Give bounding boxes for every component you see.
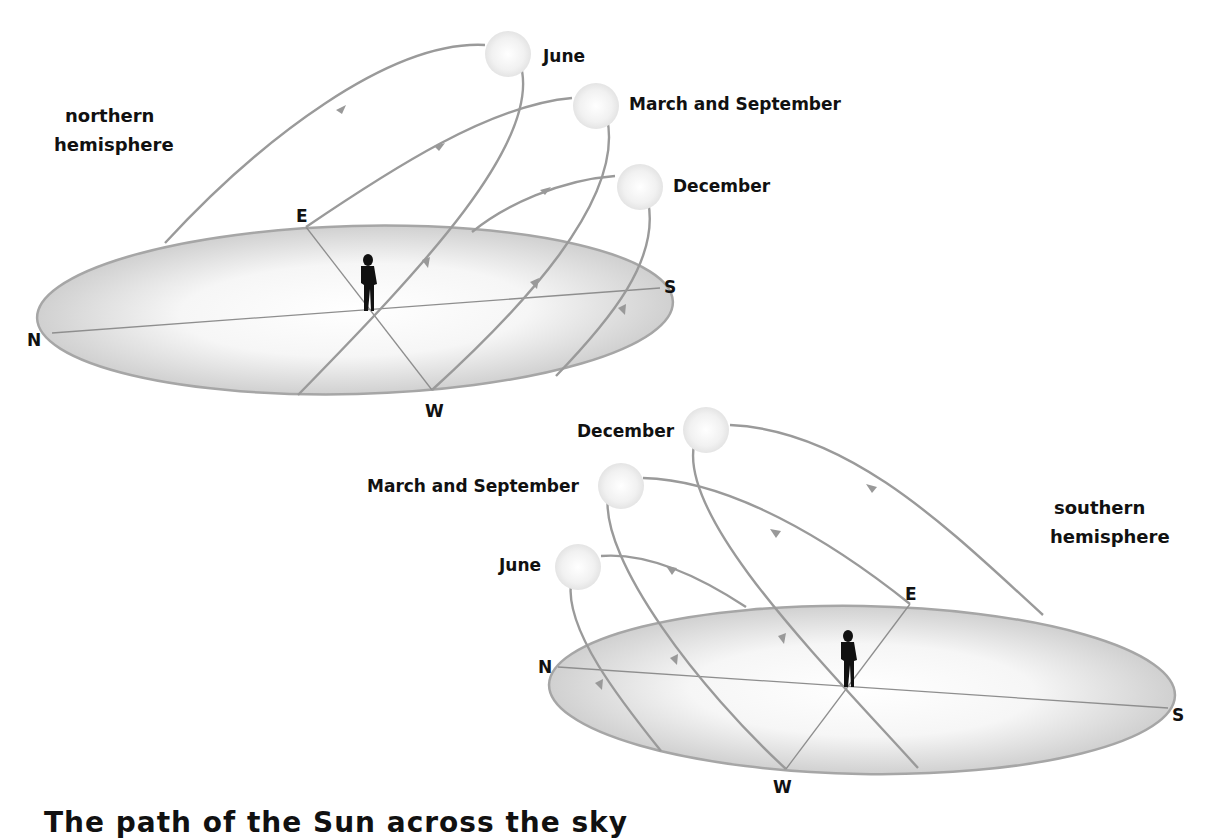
sun-june-icon — [555, 544, 601, 590]
southern-direction-south: S — [1172, 705, 1184, 725]
southern-direction-east: E — [905, 584, 917, 604]
southern-direction-west: W — [773, 777, 792, 797]
horizon-disc — [548, 601, 1177, 780]
northern-sun-label-equinox: March and September — [629, 94, 842, 114]
southern-hemisphere-label-line2: hemisphere — [1050, 526, 1170, 547]
northern-hemisphere-label-line1: northern — [65, 105, 154, 126]
southern-sun-label-june: June — [498, 555, 541, 575]
direction-arrow — [336, 105, 346, 114]
sun-equinox-icon — [598, 463, 644, 509]
southern-hemisphere-diagram: southern hemisphere December March and S… — [367, 407, 1184, 797]
sun-path-equinox — [643, 478, 910, 604]
sun-path-equinox — [306, 98, 572, 227]
direction-arrow — [866, 484, 877, 493]
sun-december-icon — [617, 164, 663, 210]
northern-sun-label-june: June — [542, 46, 585, 66]
northern-direction-north: N — [27, 330, 41, 350]
northern-hemisphere-label-line2: hemisphere — [54, 134, 174, 155]
sun-equinox-icon — [573, 83, 619, 129]
northern-direction-south: S — [664, 277, 676, 297]
direction-arrow — [770, 529, 781, 538]
southern-sun-label-equinox: March and September — [367, 476, 580, 496]
sun-path-june — [601, 556, 746, 607]
northern-sun-label-december: December — [673, 176, 771, 196]
sun-june-icon — [485, 31, 531, 77]
southern-direction-north: N — [538, 657, 552, 677]
sun-path-december — [472, 176, 615, 232]
northern-direction-east: E — [296, 206, 308, 226]
northern-direction-west: W — [425, 401, 444, 421]
southern-sun-label-december: December — [577, 421, 675, 441]
southern-hemisphere-label-line1: southern — [1054, 497, 1145, 518]
sun-december-icon — [683, 407, 729, 453]
northern-hemisphere-diagram: northern hemisphere June March and Septe… — [27, 31, 842, 421]
figure-caption: The path of the Sun across the sky — [44, 806, 628, 839]
